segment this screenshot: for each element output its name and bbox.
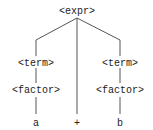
leaf-a: a [33, 118, 39, 129]
parse-tree-diagram: <expr> <term> <factor> a + <term> <facto… [0, 0, 153, 130]
node-factor-left: <factor> [12, 85, 60, 96]
node-factor-right: <factor> [96, 85, 144, 96]
leaf-plus: + [74, 118, 80, 129]
nodes: <expr> <term> <factor> a + <term> <facto… [12, 6, 144, 129]
edge-expr-to-term-right [77, 18, 120, 56]
edge-expr-to-term-left [36, 18, 77, 56]
node-term-left: <term> [18, 58, 54, 69]
node-term-right: <term> [102, 58, 138, 69]
node-expr: <expr> [59, 6, 95, 17]
leaf-b: b [117, 118, 123, 129]
